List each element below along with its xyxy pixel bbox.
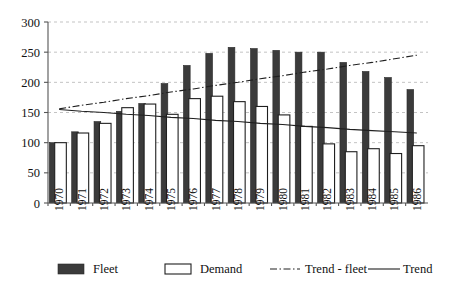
x-axis-ticks-group: 1970197119721973197419751976197719781979… bbox=[48, 188, 423, 211]
x-axis-tick-label: 1984 bbox=[366, 188, 378, 211]
x-axis-tick-label: 1973 bbox=[120, 188, 132, 211]
x-axis-tick-label: 1971 bbox=[76, 188, 88, 211]
legend-swatch-demand bbox=[165, 264, 191, 274]
table-row bbox=[234, 102, 246, 203]
x-axis-tick-label: 1980 bbox=[277, 188, 289, 211]
legend-item-label: Trend - fleet bbox=[305, 262, 368, 276]
x-axis-tick-label: 1975 bbox=[165, 188, 177, 211]
y-axis-tick-label: 150 bbox=[21, 106, 40, 120]
table-row bbox=[189, 99, 201, 203]
x-axis-tick-label: 1974 bbox=[143, 188, 155, 211]
x-axis-tick-label: 1978 bbox=[232, 188, 244, 211]
legend-item-label: Fleet bbox=[93, 262, 119, 276]
y-axis-tick-label: 200 bbox=[21, 76, 40, 90]
x-axis-tick-label: 1985 bbox=[388, 188, 400, 211]
y-axis-ticks-group: 300250200150100500 bbox=[21, 16, 48, 211]
x-axis-tick-label: 1970 bbox=[53, 188, 65, 211]
chart-figure: 300250200150100500 197019711972197319741… bbox=[0, 0, 462, 291]
x-axis-tick-label: 1979 bbox=[254, 188, 266, 211]
y-axis-tick-label: 250 bbox=[21, 46, 40, 60]
x-axis-tick-label: 1986 bbox=[411, 188, 423, 211]
legend-item-label: Trend bbox=[403, 262, 433, 276]
legend-swatch-fleet bbox=[58, 264, 84, 274]
x-axis-tick-label: 1972 bbox=[98, 188, 110, 211]
bars-group bbox=[49, 47, 424, 203]
y-axis-tick-label: 300 bbox=[21, 16, 40, 30]
y-axis-tick-label: 0 bbox=[34, 197, 40, 211]
x-axis-tick-label: 1977 bbox=[210, 188, 222, 211]
bar-chart-svg: 300250200150100500 197019711972197319741… bbox=[0, 0, 462, 291]
x-axis-tick-label: 1981 bbox=[299, 188, 311, 211]
x-axis-tick-label: 1982 bbox=[321, 188, 333, 211]
legend-item-label: Demand bbox=[200, 262, 243, 276]
y-axis-tick-label: 100 bbox=[21, 136, 40, 150]
y-axis-tick-label: 50 bbox=[28, 166, 41, 180]
table-row bbox=[211, 96, 223, 203]
legend-group: FleetDemandTrend - fleetTrend bbox=[58, 262, 433, 276]
x-axis-tick-label: 1983 bbox=[344, 188, 356, 211]
x-axis-tick-label: 1976 bbox=[187, 188, 199, 211]
